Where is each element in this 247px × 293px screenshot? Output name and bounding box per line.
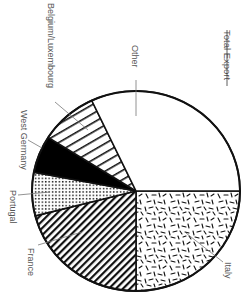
label-west-germany: West Germany — [19, 110, 29, 170]
label-italy: Italy — [223, 262, 233, 279]
label-other: Other — [130, 45, 140, 68]
pie-chart: Total Export Other Belgium/Luxembourg We… — [0, 0, 247, 293]
pie-slices — [32, 91, 240, 291]
leader-line-west-germany — [28, 140, 42, 148]
title-group: Total Export — [222, 30, 233, 86]
chart-title: Total Export — [222, 30, 233, 81]
label-france: France — [26, 248, 36, 276]
label-portugal: Portugal — [8, 190, 18, 224]
pie-chart-svg: Total Export Other Belgium/Luxembourg We… — [0, 0, 247, 293]
label-belgium-luxembourg: Belgium/Luxembourg — [46, 3, 56, 88]
